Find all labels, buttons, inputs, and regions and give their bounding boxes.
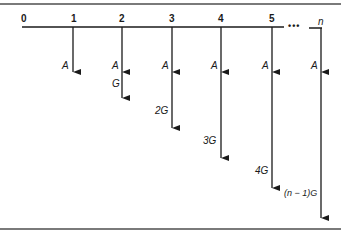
flow-label-n-g: (n − 1)G — [284, 189, 317, 198]
flow-label-3-a: A — [162, 61, 169, 71]
time-label-2: 2 — [119, 14, 125, 24]
flow-label-5-g: 4G — [255, 166, 268, 176]
flow-label-3-g: 2G — [155, 106, 168, 116]
time-label-1: 1 — [71, 14, 77, 24]
flow-label-n-a: A — [311, 61, 318, 71]
ellipsis: ••• — [288, 22, 300, 31]
time-label-0: 0 — [21, 14, 27, 24]
time-label-4: 4 — [218, 14, 224, 24]
time-label-3: 3 — [169, 14, 175, 24]
cash-flow-arrows — [0, 0, 341, 234]
flow-label-1-a: A — [62, 61, 69, 71]
time-label-5: 5 — [269, 14, 275, 24]
flow-label-4-a: A — [211, 61, 218, 71]
flow-label-2-a: A — [112, 61, 119, 71]
flow-label-5-a: A — [262, 61, 269, 71]
flow-label-2-g: G — [112, 79, 120, 89]
time-label-n: n — [318, 17, 324, 27]
flow-label-4-g: 3G — [203, 136, 216, 146]
